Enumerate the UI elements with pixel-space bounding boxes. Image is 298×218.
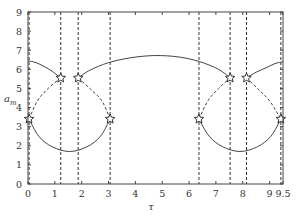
x-axis-label: τ <box>148 201 154 212</box>
x-tick-label: 3 <box>106 188 112 199</box>
lower-right-solid-curve <box>199 119 281 151</box>
x-tick-label: 1 <box>52 188 58 199</box>
star-marker <box>24 114 34 123</box>
right-dashed-arc-2-curve <box>246 78 280 119</box>
x-tick-label: 6 <box>186 188 192 199</box>
axes-ticks <box>28 12 283 184</box>
right-dashed-arc-1-curve <box>199 78 230 119</box>
plot-lines <box>24 12 285 184</box>
star-marker <box>194 114 204 123</box>
upper-left-solid-curve <box>28 61 61 78</box>
upper-middle-solid-curve <box>78 56 230 78</box>
x-tick-label: 9 <box>267 188 273 199</box>
y-tick-label: 8 <box>16 26 22 37</box>
x-tick-label: 5 <box>159 188 165 199</box>
x-tick-label: 9.5 <box>275 188 290 199</box>
lower-left-solid-curve <box>29 119 110 151</box>
y-tick-label: 3 <box>16 121 22 132</box>
y-tick-label: 0 <box>16 179 22 190</box>
star-marker <box>73 73 83 82</box>
x-tick-label: 2 <box>79 188 85 199</box>
y-tick-label: 5 <box>16 83 22 94</box>
left-dashed-arc-1-curve <box>29 78 61 119</box>
y-tick-label: 6 <box>16 64 22 75</box>
x-tick-label: 4 <box>132 188 138 199</box>
tick-labels: 01234567899.50123456789 <box>16 7 291 200</box>
y-tick-label: 2 <box>16 140 22 151</box>
star-marker <box>242 73 252 82</box>
star-marker <box>276 114 286 123</box>
plot-frame <box>28 12 283 184</box>
y-tick-label: 4 <box>16 102 22 113</box>
star-marker <box>105 114 115 123</box>
left-dashed-arc-2-curve <box>78 78 110 119</box>
y-tick-label: 7 <box>16 45 22 56</box>
x-tick-label: 8 <box>240 188 246 199</box>
y-axis-label: am <box>4 93 17 107</box>
x-tick-label: 7 <box>213 188 219 199</box>
upper-right-solid-curve <box>246 62 283 78</box>
star-marker <box>56 73 66 82</box>
y-tick-label: 9 <box>16 7 22 18</box>
x-tick-label: 0 <box>25 188 31 199</box>
y-tick-label: 1 <box>16 159 22 170</box>
chart: 01234567899.50123456789 τ am <box>0 0 298 218</box>
